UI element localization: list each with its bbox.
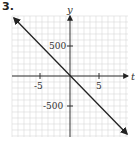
graph: y t -5 5 500 -500 <box>0 0 135 147</box>
y-tick-label-neg500: -500 <box>43 101 63 111</box>
x-tick-label-5: 5 <box>96 81 102 91</box>
x-tick-label-neg5: -5 <box>34 81 43 91</box>
y-tick-label-500: 500 <box>49 41 66 51</box>
y-axis-label: y <box>66 4 73 15</box>
x-axis-label: t <box>131 71 135 82</box>
